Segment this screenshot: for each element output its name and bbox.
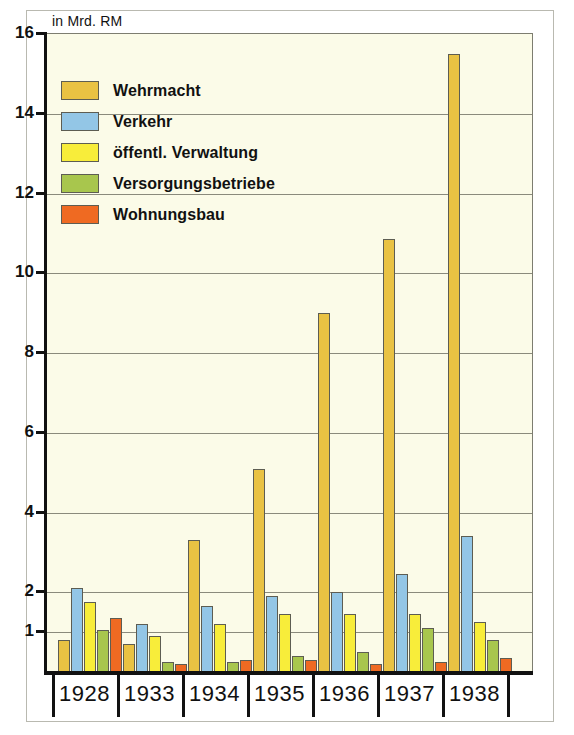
y-axis-unit-label: in Mrd. RM xyxy=(52,13,122,29)
x-axis-label-1928: 1928 xyxy=(52,681,117,707)
y-axis-tick-label: 10 xyxy=(4,262,34,282)
bar xyxy=(123,644,135,672)
x-axis-tick xyxy=(507,675,510,717)
bar xyxy=(461,536,473,672)
y-axis-tick-label: 2 xyxy=(4,581,34,601)
bar xyxy=(149,636,161,672)
legend-item-2: öffentl. Verwaltung xyxy=(61,142,275,163)
bar-group-1938 xyxy=(448,33,512,672)
bar xyxy=(201,606,213,672)
x-axis-label-1937: 1937 xyxy=(377,681,442,707)
legend-label: Wohnungsbau xyxy=(113,206,225,224)
bar xyxy=(84,602,96,672)
bar xyxy=(357,652,369,672)
bar xyxy=(97,630,109,672)
bar xyxy=(409,614,421,672)
bar xyxy=(422,628,434,672)
y-axis-tick-label: 12 xyxy=(4,183,34,203)
bar xyxy=(188,540,200,672)
legend-item-1: Verkehr xyxy=(61,111,275,132)
bar xyxy=(110,618,122,672)
bar xyxy=(487,640,499,672)
y-axis-labels: 1614121086421 xyxy=(0,0,34,735)
legend-item-3: Versorgungsbetriebe xyxy=(61,173,275,194)
y-axis-tick-label: 14 xyxy=(4,103,34,123)
bar xyxy=(500,658,512,672)
x-axis-label-1936: 1936 xyxy=(312,681,377,707)
legend-swatch-icon xyxy=(61,81,99,100)
bar xyxy=(318,313,330,672)
bar xyxy=(71,588,83,672)
x-axis-label-1935: 1935 xyxy=(247,681,312,707)
chart-legend: WehrmachtVerkehröffentl. VerwaltungVerso… xyxy=(61,80,275,235)
legend-label: Wehrmacht xyxy=(113,82,201,100)
bar xyxy=(279,614,291,672)
bar xyxy=(214,624,226,672)
y-axis-tick-label: 16 xyxy=(4,23,34,43)
legend-label: öffentl. Verwaltung xyxy=(113,144,258,162)
legend-label: Verkehr xyxy=(113,113,172,131)
bar xyxy=(383,239,395,672)
bar xyxy=(396,574,408,672)
bar xyxy=(448,54,460,672)
bar xyxy=(344,614,356,672)
bar xyxy=(266,596,278,672)
x-axis-label-1938: 1938 xyxy=(442,681,507,707)
legend-swatch-icon xyxy=(61,174,99,193)
y-axis-tick-label: 6 xyxy=(4,422,34,442)
x-axis-label-1934: 1934 xyxy=(182,681,247,707)
legend-swatch-icon xyxy=(61,205,99,224)
bar xyxy=(474,622,486,672)
legend-swatch-icon xyxy=(61,112,99,131)
bar-group-1937 xyxy=(383,33,447,672)
y-axis-tick-label: 1 xyxy=(4,621,34,641)
legend-item-0: Wehrmacht xyxy=(61,80,275,101)
legend-label: Versorgungsbetriebe xyxy=(113,175,275,193)
bar-group-1936 xyxy=(318,33,382,672)
bar xyxy=(58,640,70,672)
chart-root: in Mrd. RM 1614121086421 192819331934193… xyxy=(0,0,574,735)
bar xyxy=(253,469,265,672)
y-axis-tick-label: 8 xyxy=(4,342,34,362)
legend-item-4: Wohnungsbau xyxy=(61,204,275,225)
y-axis-tick-label: 4 xyxy=(4,502,34,522)
bar xyxy=(136,624,148,672)
legend-swatch-icon xyxy=(61,143,99,162)
bar xyxy=(292,656,304,672)
bar xyxy=(331,592,343,672)
x-axis-label-1933: 1933 xyxy=(117,681,182,707)
